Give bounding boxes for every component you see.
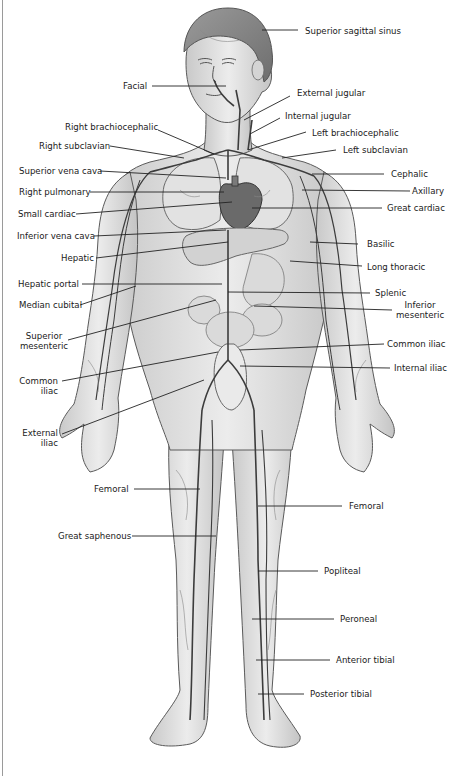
label-left-subclavian: Left subclavian (343, 145, 408, 155)
label-external-iliac-line1: External (14, 428, 58, 438)
label-cephalic: Cephalic (391, 169, 428, 179)
label-long-thoracic: Long thoracic (367, 262, 425, 272)
label-external-iliac-line2: iliac (14, 438, 58, 448)
label-femoral-right: Femoral (349, 501, 384, 511)
label-femoral-left: Femoral (94, 484, 129, 494)
label-superior-sagittal-sinus: Superior sagittal sinus (305, 26, 401, 36)
label-external-jugular: External jugular (297, 88, 365, 98)
label-superior-mesenteric: Superior mesenteric (18, 331, 70, 351)
label-external-iliac: External iliac (14, 428, 58, 448)
label-axillary: Axillary (412, 186, 444, 196)
label-great-cardiac: Great cardiac (387, 203, 445, 213)
label-right-pulmonary: Right pulmonary (19, 187, 91, 197)
label-inferior-vena-cava: Inferior vena cava (17, 231, 95, 241)
label-common-iliac-left-line1: Common (14, 376, 58, 386)
label-posterior-tibial: Posterior tibial (310, 689, 372, 699)
label-left-brachiocephalic: Left brachiocephalic (312, 128, 399, 138)
label-facial: Facial (123, 81, 147, 91)
label-superior-mesenteric-line1: Superior (18, 331, 70, 341)
label-internal-jugular: Internal jugular (285, 111, 351, 121)
label-hepatic: Hepatic (61, 253, 94, 263)
label-hepatic-portal: Hepatic portal (18, 279, 79, 289)
label-small-cardiac: Small cardiac (18, 209, 76, 219)
label-superior-mesenteric-line2: mesenteric (18, 341, 70, 351)
label-inferior-mesenteric-line1: Inferior (396, 300, 444, 310)
label-common-iliac-left-line2: iliac (14, 386, 58, 396)
label-peroneal: Peroneal (340, 614, 377, 624)
label-right-brachiocephalic: Right brachiocephalic (65, 122, 158, 132)
label-great-saphenous: Great saphenous (58, 531, 131, 541)
label-inferior-mesenteric-line2: mesenteric (396, 310, 444, 320)
label-common-iliac-right: Common iliac (387, 339, 446, 349)
label-anterior-tibial: Anterior tibial (336, 655, 395, 665)
label-splenic: Splenic (375, 288, 406, 298)
label-superior-vena-cava: Superior vena cava (19, 166, 102, 176)
label-basilic: Basilic (367, 239, 395, 249)
label-popliteal: Popliteal (324, 566, 361, 576)
label-right-subclavian: Right subclavian (39, 141, 110, 151)
label-median-cubital: Median cubital (19, 300, 82, 310)
label-common-iliac-left: Common iliac (14, 376, 58, 396)
label-internal-iliac: Internal iliac (394, 363, 447, 373)
label-inferior-mesenteric: Inferior mesenteric (396, 300, 444, 320)
